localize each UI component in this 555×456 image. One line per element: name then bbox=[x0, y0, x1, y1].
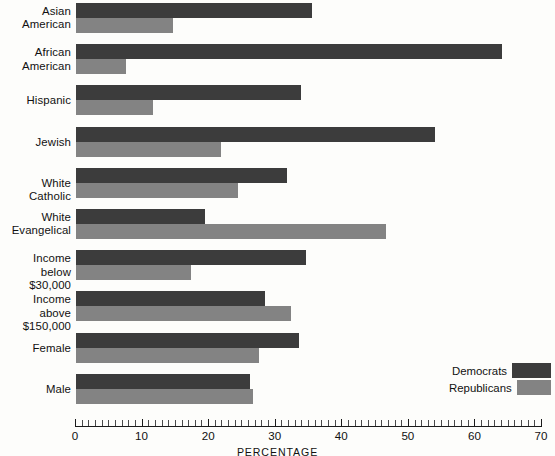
bar-republicans bbox=[76, 348, 259, 363]
category-label: White Catholic bbox=[0, 167, 71, 204]
tick-minor bbox=[395, 420, 396, 426]
tick-minor bbox=[448, 420, 449, 426]
legend-swatch-republicans bbox=[517, 380, 551, 395]
tick-minor bbox=[415, 420, 416, 426]
bar-republicans bbox=[76, 306, 291, 321]
bar-republicans bbox=[76, 224, 386, 239]
tick-minor bbox=[388, 420, 389, 426]
legend-label-democrats: Democrats bbox=[452, 365, 507, 377]
tick-minor bbox=[148, 420, 149, 426]
tick-label: 40 bbox=[335, 429, 348, 442]
bar-pair bbox=[76, 291, 291, 321]
tick-minor bbox=[281, 420, 282, 426]
tick-minor bbox=[221, 420, 222, 426]
tick-minor bbox=[321, 420, 322, 426]
tick-minor bbox=[494, 420, 495, 426]
bar-democrats bbox=[76, 333, 299, 348]
tick-label: 60 bbox=[468, 429, 481, 442]
tick-minor bbox=[355, 420, 356, 426]
bar-chart: AsianAmericanAfricanAmericanHispanicJewi… bbox=[0, 0, 555, 456]
category-label: Income below$30,000 bbox=[0, 249, 71, 292]
tick-minor bbox=[488, 420, 489, 426]
tick-minor bbox=[241, 420, 242, 426]
tick-minor bbox=[115, 420, 116, 426]
plot-area: AsianAmericanAfricanAmericanHispanicJewi… bbox=[0, 0, 555, 412]
bar-republicans bbox=[76, 100, 153, 115]
bar-democrats bbox=[76, 85, 301, 100]
bar-republicans bbox=[76, 18, 173, 33]
tick-major bbox=[341, 419, 342, 427]
bar-republicans bbox=[76, 142, 221, 157]
tick-minor bbox=[135, 420, 136, 426]
tick-minor bbox=[361, 420, 362, 426]
tick-minor bbox=[421, 420, 422, 426]
tick-minor bbox=[315, 420, 316, 426]
tick-label: 50 bbox=[401, 429, 414, 442]
bar-group: Income above$150,000 bbox=[0, 290, 555, 324]
tick-minor bbox=[368, 420, 369, 426]
tick-minor bbox=[128, 420, 129, 426]
category-label: Income above$150,000 bbox=[0, 290, 71, 333]
bar-group: Hispanic bbox=[0, 84, 555, 118]
bar-democrats bbox=[76, 291, 265, 306]
tick-major bbox=[275, 419, 276, 427]
legend-swatch-democrats bbox=[512, 363, 551, 378]
tick-minor bbox=[188, 420, 189, 426]
bar-democrats bbox=[76, 3, 312, 18]
tick-minor bbox=[441, 420, 442, 426]
tick-major bbox=[142, 419, 143, 427]
tick-minor bbox=[468, 420, 469, 426]
tick-minor bbox=[521, 420, 522, 426]
tick-label: 30 bbox=[268, 429, 281, 442]
bar-pair bbox=[76, 44, 502, 74]
tick-minor bbox=[201, 420, 202, 426]
axis-end-cap bbox=[75, 420, 76, 427]
tick-minor bbox=[255, 420, 256, 426]
tick-minor bbox=[195, 420, 196, 426]
tick-minor bbox=[88, 420, 89, 426]
tick-minor bbox=[348, 420, 349, 426]
tick-minor bbox=[328, 420, 329, 426]
bar-group: AfricanAmerican bbox=[0, 43, 555, 77]
category-label: WhiteEvangelical bbox=[0, 208, 71, 238]
bar-republicans bbox=[76, 59, 126, 74]
legend-label-republicans: Republicans bbox=[449, 382, 512, 394]
category-label: AsianAmerican bbox=[0, 2, 71, 32]
tick-minor bbox=[82, 420, 83, 426]
category-label: Hispanic bbox=[0, 84, 71, 107]
tick-minor bbox=[375, 420, 376, 426]
x-axis: 010203040506070 PERCENTAGE bbox=[0, 418, 555, 456]
tick-minor bbox=[534, 420, 535, 426]
legend-item-republicans: Republicans bbox=[449, 379, 551, 396]
tick-minor bbox=[461, 420, 462, 426]
tick-minor bbox=[268, 420, 269, 426]
tick-minor bbox=[288, 420, 289, 426]
category-label: AfricanAmerican bbox=[0, 43, 71, 73]
tick-minor bbox=[248, 420, 249, 426]
tick-minor bbox=[301, 420, 302, 426]
tick-minor bbox=[155, 420, 156, 426]
tick-minor bbox=[175, 420, 176, 426]
bar-republicans bbox=[76, 389, 253, 404]
tick-minor bbox=[168, 420, 169, 426]
tick-minor bbox=[122, 420, 123, 426]
bar-republicans bbox=[76, 265, 191, 280]
tick-minor bbox=[228, 420, 229, 426]
tick-minor bbox=[102, 420, 103, 426]
tick-label: 0 bbox=[72, 429, 78, 442]
tick-minor bbox=[162, 420, 163, 426]
bar-democrats bbox=[76, 374, 250, 389]
tick-minor bbox=[401, 420, 402, 426]
category-label: Female bbox=[0, 332, 71, 355]
axis-end-cap bbox=[541, 420, 542, 427]
bar-group: White Catholic bbox=[0, 167, 555, 201]
bar-pair bbox=[76, 168, 287, 198]
tick-minor bbox=[508, 420, 509, 426]
chart-legend: Democrats Republicans bbox=[449, 362, 551, 396]
tick-minor bbox=[428, 420, 429, 426]
category-label: Male bbox=[0, 373, 71, 396]
category-label: Jewish bbox=[0, 126, 71, 149]
bar-pair bbox=[76, 250, 306, 280]
bar-pair bbox=[76, 85, 301, 115]
bar-group: AsianAmerican bbox=[0, 2, 555, 36]
